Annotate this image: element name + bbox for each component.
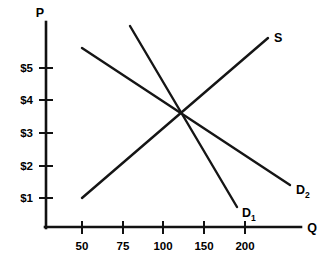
y-tick-label-5: $5 (20, 62, 33, 74)
supply-demand-chart: P Q $5 $4 $3 $2 $1 50 75 100 150 200 S D… (0, 0, 327, 268)
y-tick-label-1: $1 (20, 192, 33, 204)
x-axis-title: Q (307, 221, 317, 235)
supply-curve (82, 38, 268, 198)
y-tick-label-4: $4 (20, 94, 33, 106)
supply-curve-label: S (274, 31, 282, 45)
demand-curve-1 (130, 26, 237, 207)
y-axis-title: P (36, 6, 44, 20)
x-tick-label-200: 200 (235, 240, 254, 252)
x-tick-label-100: 100 (153, 240, 172, 252)
demand-curve-2-label: D (296, 183, 305, 197)
demand-curve-2 (82, 48, 290, 185)
chart-canvas: P Q $5 $4 $3 $2 $1 50 75 100 150 200 S D… (0, 0, 327, 268)
x-tick-label-75: 75 (117, 240, 130, 252)
y-tick-label-2: $2 (20, 160, 33, 172)
x-tick-label-50: 50 (76, 240, 89, 252)
demand-curve-1-label: D (242, 206, 251, 220)
y-tick-label-3: $3 (20, 127, 33, 139)
x-tick-label-150: 150 (194, 240, 213, 252)
demand-curve-2-label-subscript: 2 (305, 190, 310, 200)
demand-curve-1-label-subscript: 1 (251, 213, 256, 223)
